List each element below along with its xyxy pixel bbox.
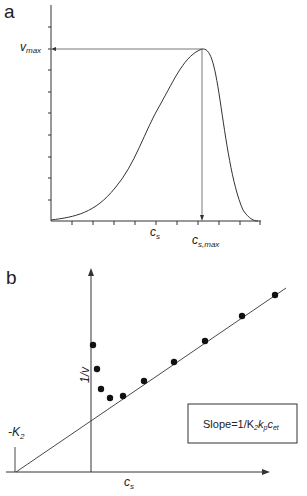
data-point <box>98 386 104 392</box>
vmax-label: vmax <box>20 40 42 55</box>
arrow-left-icon <box>51 47 56 51</box>
k2-label: -K2 <box>8 425 25 441</box>
data-point <box>120 393 126 399</box>
data-point <box>239 313 245 319</box>
csmax-tick-label: cs,max <box>192 233 220 249</box>
y-axis-label-b: 1/v <box>78 366 92 383</box>
x-ticks-a <box>72 221 260 225</box>
rate-curve <box>51 49 258 221</box>
data-point <box>272 292 278 298</box>
arrow-up-icon <box>88 268 94 276</box>
panel-b-label: b <box>6 267 17 288</box>
figure: a <box>0 0 307 496</box>
arrow-down-icon <box>200 215 204 221</box>
panel-a-label: a <box>4 1 15 22</box>
arrow-right-icon <box>262 469 270 475</box>
panel-a: a <box>4 1 261 249</box>
panel-b: b -K2 1/v cs Slope=1/K2kpcet <box>6 267 297 491</box>
slope-annotation-text: Slope=1/K2kpcet <box>203 418 280 432</box>
data-point <box>94 366 100 372</box>
data-points <box>90 292 278 401</box>
fit-line <box>16 288 286 472</box>
data-point <box>141 378 147 384</box>
x-axis-label-b: cs <box>124 475 134 491</box>
cs-tick-label: cs <box>150 225 160 241</box>
data-point <box>171 359 177 365</box>
data-point <box>202 338 208 344</box>
data-point <box>107 395 113 401</box>
data-point <box>90 342 96 348</box>
